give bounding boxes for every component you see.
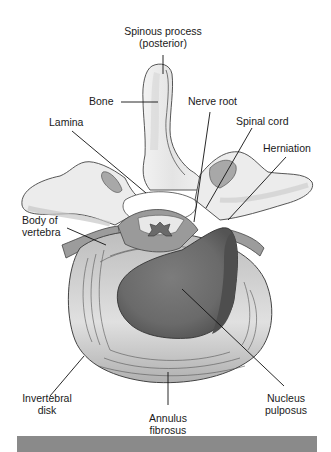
label-body-of-vertebra-line2: vertebra — [22, 226, 61, 238]
label-annulus-fibrosus-line1: Annulus — [140, 412, 196, 424]
label-invertebral-disk: Invertebral disk — [15, 392, 79, 416]
label-herniation: Herniation — [263, 142, 311, 154]
label-spinal-cord-text: Spinal cord — [236, 115, 289, 127]
label-lamina-text: Lamina — [49, 116, 83, 128]
label-lamina: Lamina — [49, 116, 83, 128]
label-nucleus-pulposus-line2: pulposus — [256, 404, 316, 416]
label-bone: Bone — [89, 95, 114, 107]
label-invertebral-disk-line1: Invertebral — [15, 392, 79, 404]
label-spinal-cord: Spinal cord — [236, 115, 289, 127]
label-nucleus-pulposus: Nucleus pulposus — [256, 392, 316, 416]
label-annulus-fibrosus-line2: fibrosus — [140, 424, 196, 436]
label-spinous-process-line2: (posterior) — [118, 37, 208, 49]
label-herniation-text: Herniation — [263, 142, 311, 154]
label-nerve-root: Nerve root — [188, 95, 237, 107]
label-nucleus-pulposus-line1: Nucleus — [256, 392, 316, 404]
label-annulus-fibrosus: Annulus fibrosus — [140, 412, 196, 436]
label-nerve-root-text: Nerve root — [188, 95, 237, 107]
footer-bar — [17, 436, 317, 452]
label-spinous-process: Spinous process (posterior) — [118, 25, 208, 49]
label-spinous-process-line1: Spinous process — [118, 25, 208, 37]
label-bone-text: Bone — [89, 95, 114, 107]
spinous-process — [143, 64, 202, 190]
label-body-of-vertebra: Body of vertebra — [22, 214, 61, 238]
leader-invertebral-disk — [50, 356, 84, 396]
label-invertebral-disk-line2: disk — [15, 404, 79, 416]
label-body-of-vertebra-line1: Body of — [22, 214, 61, 226]
